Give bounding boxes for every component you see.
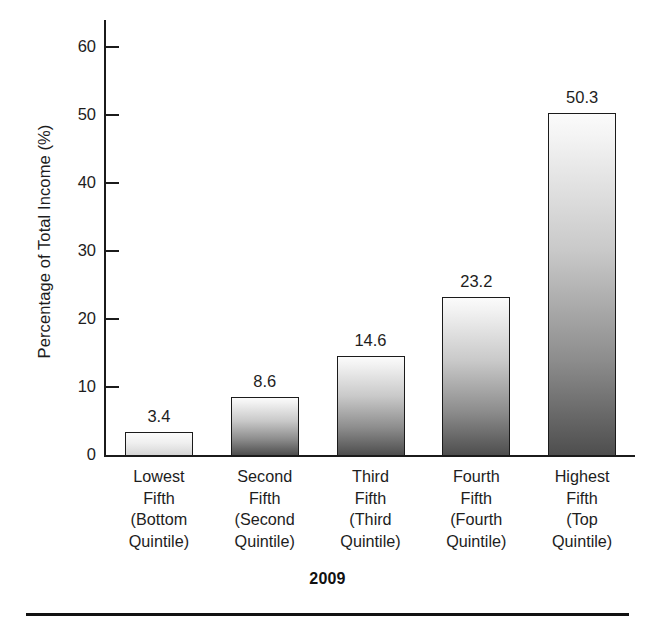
x-category-label-2: SecondFifth(SecondQuintile) bbox=[212, 466, 318, 552]
bar-value-label-5: 50.3 bbox=[542, 89, 622, 106]
bar-value-label-2: 8.6 bbox=[225, 373, 305, 390]
y-tick-label-20: 20 bbox=[26, 310, 96, 327]
y-tick-label-30: 30 bbox=[26, 242, 96, 259]
category-line: (Second bbox=[212, 509, 318, 531]
category-line: Quintile) bbox=[318, 531, 424, 553]
category-line: Highest bbox=[529, 466, 635, 488]
y-tick-label-40: 40 bbox=[26, 174, 96, 191]
y-tick-label-10: 10 bbox=[26, 378, 96, 395]
category-line: Quintile) bbox=[212, 531, 318, 553]
category-line: Fifth bbox=[529, 488, 635, 510]
category-line: Quintile) bbox=[529, 531, 635, 553]
y-tick-mark-50 bbox=[106, 114, 119, 116]
y-axis-line bbox=[104, 20, 106, 457]
category-line: (Top bbox=[529, 509, 635, 531]
bar-1 bbox=[125, 432, 193, 456]
bar-value-label-4: 23.2 bbox=[436, 273, 516, 290]
x-category-label-3: ThirdFifth(ThirdQuintile) bbox=[318, 466, 424, 552]
y-tick-label-0: 0 bbox=[26, 446, 96, 463]
category-line: (Third bbox=[318, 509, 424, 531]
category-line: Quintile) bbox=[106, 531, 212, 553]
bar-5 bbox=[548, 113, 616, 456]
category-line: Fourth bbox=[423, 466, 529, 488]
y-tick-label-50: 50 bbox=[26, 106, 96, 123]
y-tick-mark-10 bbox=[106, 386, 119, 388]
category-line: Second bbox=[212, 466, 318, 488]
bar-value-label-1: 3.4 bbox=[119, 408, 199, 425]
bar-3 bbox=[337, 356, 405, 456]
category-line: Lowest bbox=[106, 466, 212, 488]
y-tick-mark-20 bbox=[106, 318, 119, 320]
category-line: Fifth bbox=[318, 488, 424, 510]
income-quintile-bar-chart: Percentage of Total Income (%) 605040302… bbox=[0, 0, 655, 627]
y-tick-mark-60 bbox=[106, 46, 119, 48]
x-category-label-4: FourthFifth(FourthQuintile) bbox=[423, 466, 529, 552]
y-tick-mark-40 bbox=[106, 182, 119, 184]
category-line: Third bbox=[318, 466, 424, 488]
category-line: Fifth bbox=[423, 488, 529, 510]
x-category-label-5: HighestFifth(TopQuintile) bbox=[529, 466, 635, 552]
footer-divider bbox=[26, 613, 629, 616]
category-line: (Fourth bbox=[423, 509, 529, 531]
bar-4 bbox=[442, 297, 510, 456]
bar-value-label-3: 14.6 bbox=[331, 332, 411, 349]
y-tick-label-60: 60 bbox=[26, 38, 96, 55]
category-line: Quintile) bbox=[423, 531, 529, 553]
category-line: Fifth bbox=[106, 488, 212, 510]
bar-2 bbox=[231, 397, 299, 456]
category-line: (Bottom bbox=[106, 509, 212, 531]
category-line: Fifth bbox=[212, 488, 318, 510]
x-category-label-1: LowestFifth(BottomQuintile) bbox=[106, 466, 212, 552]
y-tick-mark-30 bbox=[106, 250, 119, 252]
chart-year-label: 2009 bbox=[0, 570, 655, 588]
